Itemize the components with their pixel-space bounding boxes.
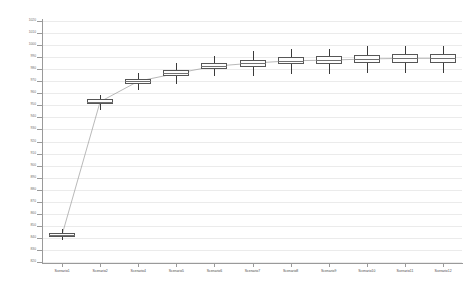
x-tick: [62, 263, 63, 267]
y-tick-label: 990: [30, 55, 36, 58]
whisker-lower: [443, 63, 444, 73]
grid-line: [43, 81, 462, 82]
y-tick-label: 940: [30, 116, 36, 119]
grid-line: [43, 45, 462, 46]
grid-line: [43, 226, 462, 227]
x-tick-label: Scenario6: [207, 270, 222, 273]
grid-line: [43, 202, 462, 203]
y-tick-label: 840: [30, 236, 36, 239]
x-tick: [367, 263, 368, 267]
grid-line: [43, 117, 462, 118]
x-tick-label: Scenario4: [131, 270, 146, 273]
median-line: [278, 61, 304, 62]
whisker-upper: [291, 49, 292, 57]
median-line: [163, 73, 189, 74]
whisker-lower: [214, 69, 215, 76]
grid-line: [43, 250, 462, 251]
whisker-upper: [253, 51, 254, 59]
whisker-upper: [214, 56, 215, 63]
y-tick-label: 1010: [29, 31, 36, 34]
y-tick-label: 1020: [29, 19, 36, 22]
grid-line: [43, 154, 462, 155]
y-tick-label: 820: [30, 260, 36, 263]
y-tick-label: 960: [30, 92, 36, 95]
y-tick-label: 950: [30, 104, 36, 107]
grid-line: [43, 142, 462, 143]
x-tick: [214, 263, 215, 267]
x-tick: [138, 263, 139, 267]
y-tick-label: 880: [30, 188, 36, 191]
y-tick-label: 830: [30, 248, 36, 251]
median-line: [430, 58, 456, 59]
y-tick-label: 860: [30, 212, 36, 215]
median-line: [125, 81, 151, 82]
whisker-upper: [405, 46, 406, 53]
whisker-lower: [62, 237, 63, 241]
grid-line: [43, 93, 462, 94]
whisker-lower: [253, 67, 254, 77]
grid-line: [43, 190, 462, 191]
y-axis-labels: 1020101010009909809709609509409309209109…: [0, 0, 36, 296]
chart-canvas: 1020101010009909809709609509409309209109…: [0, 0, 475, 296]
median-line: [316, 60, 342, 61]
whisker-lower: [176, 76, 177, 83]
y-tick-label: 900: [30, 164, 36, 167]
y-tick-label: 930: [30, 128, 36, 131]
x-tick: [176, 263, 177, 267]
y-tick-label: 910: [30, 152, 36, 155]
y-tick-label: 850: [30, 224, 36, 227]
whisker-lower: [291, 64, 292, 74]
x-tick-label: Scenario12: [434, 270, 451, 273]
x-tick-label: Scenario9: [321, 270, 336, 273]
whisker-upper: [443, 46, 444, 53]
whisker-lower: [405, 63, 406, 73]
median-line: [240, 63, 266, 64]
y-tick-label: 920: [30, 140, 36, 143]
whisker-lower: [367, 63, 368, 73]
x-tick: [329, 263, 330, 267]
x-tick-label: Scenario1: [54, 270, 69, 273]
x-tick: [100, 263, 101, 267]
whisker-upper: [329, 49, 330, 56]
y-tick-label: 870: [30, 200, 36, 203]
grid-line: [43, 21, 462, 22]
y-tick-label: 1000: [29, 43, 36, 46]
grid-line: [43, 105, 462, 106]
x-tick: [291, 263, 292, 267]
x-tick: [405, 263, 406, 267]
grid-line: [43, 238, 462, 239]
whisker-lower: [329, 64, 330, 74]
median-line: [49, 235, 75, 236]
x-tick: [443, 263, 444, 267]
x-tick-label: Scenario2: [92, 270, 107, 273]
y-tick-label: 890: [30, 176, 36, 179]
y-axis-line: [42, 19, 43, 264]
x-tick-label: Scenario11: [396, 270, 413, 273]
median-line: [392, 58, 418, 59]
y-tick-label: 980: [30, 68, 36, 71]
grid-line: [43, 129, 462, 130]
x-tick-label: Scenario8: [283, 270, 298, 273]
x-tick-label: Scenario10: [358, 270, 375, 273]
x-tick-label: Scenario5: [169, 270, 184, 273]
median-line: [354, 59, 380, 60]
grid-line: [43, 166, 462, 167]
whisker-upper: [367, 46, 368, 54]
x-tick: [253, 263, 254, 267]
whisker-lower: [100, 104, 101, 110]
median-line: [87, 102, 113, 103]
grid-line: [43, 178, 462, 179]
grid-line: [43, 33, 462, 34]
whisker-lower: [138, 84, 139, 90]
x-tick-label: Scenario7: [245, 270, 260, 273]
median-line: [201, 66, 227, 67]
y-tick-label: 970: [30, 80, 36, 83]
whisker-upper: [176, 63, 177, 70]
grid-line: [43, 214, 462, 215]
